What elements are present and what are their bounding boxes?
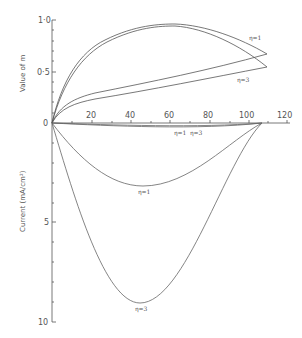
tick-labels: 1·0 0·5 0 5 10 20 40 60 80 100 120 (37, 16, 292, 327)
eta1-current-label: η=1 (138, 188, 150, 196)
x-tick-20: 20 (86, 111, 96, 120)
eta3-top-label: η=3 (237, 76, 250, 84)
y-upper-title: Value of m (19, 55, 27, 92)
x-tick-80: 80 (203, 111, 213, 120)
axes (52, 20, 290, 322)
current-curves (52, 123, 262, 303)
eta1-current (52, 123, 262, 186)
y-tick-5: 5 (44, 218, 49, 227)
y-lower-ticks (52, 143, 56, 322)
eta3-m-lower (52, 67, 267, 123)
eta1-top-label: η=1 (249, 34, 261, 42)
x-tick-60: 60 (164, 111, 174, 120)
x-tick-40: 40 (125, 111, 135, 120)
curve-labels: η=1 η=3 η=1 η=3 η=1 η=3 (135, 34, 261, 313)
eta3-current (52, 123, 262, 303)
y-tick-1-0: 1·0 (38, 16, 51, 25)
m-curves (52, 24, 267, 123)
x-tick-100: 100 (239, 111, 254, 120)
x-ticks (72, 120, 287, 123)
chart: 1·0 0·5 0 5 10 20 40 60 80 100 120 Value… (0, 0, 302, 338)
eta1-axis-label: η=1 (174, 129, 186, 137)
x-tick-120: 120 (277, 111, 292, 120)
y-tick-0: 0 (43, 119, 48, 128)
eta1-m-return (52, 26, 267, 123)
y-upper-ticks (52, 20, 56, 113)
eta3-axis-label: η=3 (190, 129, 203, 137)
y-lower-title: Current (mA/cm²) (19, 170, 27, 232)
y-tick-10: 10 (38, 318, 48, 327)
eta3-m-upper (52, 54, 267, 123)
eta3-current-label: η=3 (135, 305, 148, 313)
y-tick-0-5: 0·5 (37, 68, 50, 77)
